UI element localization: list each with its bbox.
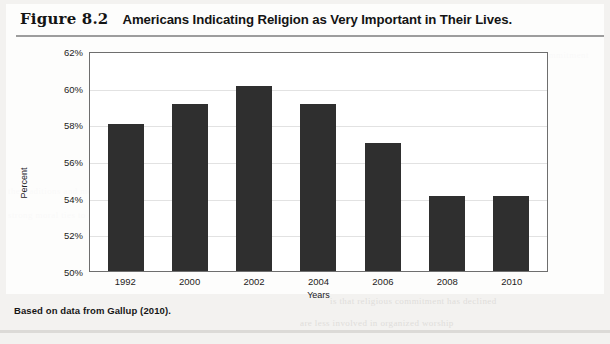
bar bbox=[236, 86, 272, 271]
bleed-text-line5: are less involved in organized worship bbox=[300, 318, 454, 328]
bar bbox=[108, 124, 144, 271]
figure-caption-title: Americans Indicating Religion as Very Im… bbox=[123, 12, 512, 27]
x-axis-title: Years bbox=[89, 290, 548, 300]
figure-number: Figure 8.2 bbox=[20, 10, 109, 28]
x-axis-tick-label: 2008 bbox=[429, 276, 465, 287]
y-axis-tick-label: 62% bbox=[43, 47, 83, 58]
bottom-divider bbox=[0, 330, 610, 333]
plot-area bbox=[89, 52, 548, 272]
bar-series bbox=[90, 53, 547, 271]
figure-card: Figure 8.2 Americans Indicating Religion… bbox=[6, 4, 604, 294]
y-axis-tick-label: 58% bbox=[43, 120, 83, 131]
x-axis-tick-labels: 1992200020022004200620082010 bbox=[89, 276, 548, 287]
figure-root: ness about acceptability of behavior and… bbox=[0, 0, 610, 344]
bar bbox=[300, 104, 336, 271]
bar bbox=[429, 196, 465, 271]
x-axis-tick-label: 2010 bbox=[494, 276, 530, 287]
bar bbox=[493, 196, 529, 271]
bar bbox=[365, 143, 401, 271]
y-axis-tick-label: 52% bbox=[43, 230, 83, 241]
x-axis-tick-label: 2006 bbox=[365, 276, 401, 287]
y-axis-tick-label: 56% bbox=[43, 157, 83, 168]
source-note: Based on data from Gallup (2010). bbox=[14, 305, 171, 316]
x-axis-tick-label: 2000 bbox=[172, 276, 208, 287]
y-axis-tick-label: 50% bbox=[43, 267, 83, 278]
y-axis-tick-label: 54% bbox=[43, 193, 83, 204]
x-axis-tick-label: 1992 bbox=[107, 276, 143, 287]
figure-title-row: Figure 8.2 Americans Indicating Religion… bbox=[20, 10, 595, 34]
bar bbox=[172, 104, 208, 271]
y-axis-tick-label: 60% bbox=[43, 83, 83, 94]
x-axis-tick-label: 2002 bbox=[236, 276, 272, 287]
x-axis-tick-label: 2004 bbox=[300, 276, 336, 287]
y-axis-tick-labels: 62%60%58%56%54%52%50% bbox=[26, 40, 83, 272]
title-divider bbox=[16, 35, 604, 37]
chart-area: Percent 62%60%58%56%54%52%50% 1992200020… bbox=[6, 40, 604, 295]
